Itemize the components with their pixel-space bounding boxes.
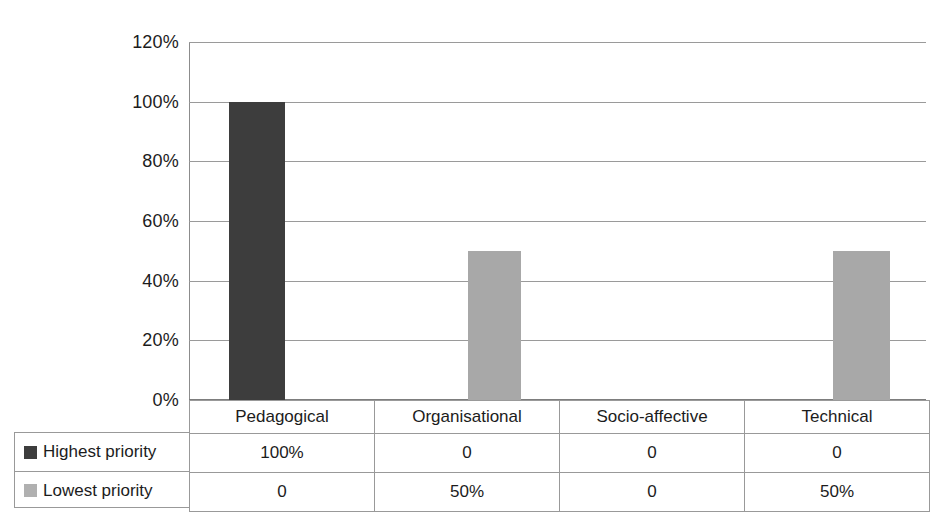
legend-label-lowest-priority: Lowest priority (43, 481, 153, 501)
table-row: 100% 0 0 0 (190, 434, 930, 473)
bar-chart-figure: 120% 100% 80% 60% 40% 20% 0% (0, 0, 948, 518)
legend-swatch-icon-lowest-priority (24, 484, 37, 497)
cell-highest-organisational: 0 (375, 434, 560, 473)
cell-lowest-organisational: 50% (375, 473, 560, 512)
plot-area (189, 42, 926, 400)
y-tick-label-40: 40% (79, 272, 179, 290)
cell-highest-technical: 0 (745, 434, 930, 473)
cell-highest-pedagogical: 100% (190, 434, 375, 473)
legend-item-lowest-priority: Lowest priority (15, 471, 189, 509)
column-header-socio-affective: Socio-affective (560, 401, 745, 434)
column-header-technical: Technical (745, 401, 930, 434)
y-tick-label-60: 60% (79, 212, 179, 230)
column-header-organisational: Organisational (375, 401, 560, 434)
bar-group-socio-affective (559, 42, 744, 400)
bar-lowest-priority-technical (833, 251, 890, 400)
y-tick-label-80: 80% (79, 152, 179, 170)
legend: Highest priority Lowest priority (14, 432, 189, 508)
cell-lowest-technical: 50% (745, 473, 930, 512)
legend-label-highest-priority: Highest priority (43, 442, 156, 462)
bar-lowest-priority-organisational (468, 251, 521, 400)
cell-lowest-pedagogical: 0 (190, 473, 375, 512)
table-row-category-headers: Pedagogical Organisational Socio-affecti… (190, 401, 930, 434)
legend-item-highest-priority: Highest priority (15, 433, 189, 471)
bar-highest-priority-pedagogical (229, 102, 285, 400)
bar-group-pedagogical (189, 42, 374, 400)
cell-lowest-socio-affective: 0 (560, 473, 745, 512)
column-header-pedagogical: Pedagogical (190, 401, 375, 434)
y-tick-label-120: 120% (79, 33, 179, 51)
y-tick-label-20: 20% (79, 331, 179, 349)
cell-highest-socio-affective: 0 (560, 434, 745, 473)
y-tick-label-0: 0% (79, 391, 179, 409)
y-tick-label-100: 100% (79, 93, 179, 111)
table-row: 0 50% 0 50% (190, 473, 930, 512)
legend-swatch-icon-highest-priority (24, 446, 37, 459)
data-table: Pedagogical Organisational Socio-affecti… (189, 400, 930, 512)
bar-group-technical (744, 42, 926, 400)
bar-group-organisational (374, 42, 559, 400)
y-axis: 120% 100% 80% 60% 40% 20% 0% (75, 42, 179, 400)
